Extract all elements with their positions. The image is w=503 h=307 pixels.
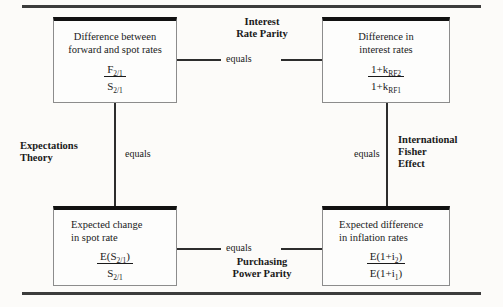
edge-label-expectations-theory-relation: equals [122,148,154,159]
formula-denominator: S2/1 [104,266,126,279]
node-forward-spot-formula: F2/1 S2/1 [54,63,176,97]
edge-label-international-fisher-effect-relation: equals [351,148,383,159]
node-forward-spot-title: Difference between forward and spot rate… [54,21,176,56]
formula-denominator: E(1+i1) [367,266,406,279]
connector-forward-spot-to-interest-rates-right [281,59,322,61]
edge-name-interest-rate-parity: Interest Rate Parity [219,16,305,40]
edge-label-interest-rate-parity-relation: equals [223,53,255,64]
node-inflation-rates-title: Expected difference in inflation rates [323,210,449,244]
connector-forward-spot-to-expected-spot [114,103,116,206]
connector-expected-spot-to-inflation-left [177,248,221,250]
connector-expected-spot-to-inflation-right [281,248,322,250]
diagram-canvas: Difference between forward and spot rate… [0,0,503,307]
connector-forward-spot-to-interest-rates-left [177,59,221,61]
node-inflation-rates: Expected difference in inflation rates E… [322,206,450,286]
node-expected-spot: Expected change in spot rate E(S2/1) S2/… [53,206,177,286]
edge-name-purchasing-power-parity: Purchasing Power Parity [214,256,310,280]
formula-numerator: F2/1 [104,63,126,77]
formula-numerator: E(S2/1) [97,250,133,264]
node-expected-spot-title: Expected change in spot rate [54,210,176,244]
node-interest-rates-title: Difference in interest rates [323,21,449,56]
node-expected-spot-formula: E(S2/1) S2/1 [54,250,176,284]
node-forward-spot: Difference between forward and spot rate… [53,17,177,103]
formula-denominator: S2/1 [104,79,126,92]
edge-name-expectations-theory: Expectations Theory [20,140,78,164]
bottom-horizontal-rule [22,292,481,295]
formula-numerator: E(1+i2) [367,250,406,264]
edge-name-international-fisher-effect: International Fisher Effect [398,134,458,170]
formula-denominator: 1+kRF1 [368,79,404,92]
node-interest-rates-formula: 1+kRF2 1+kRF1 [323,63,449,97]
top-horizontal-rule [22,5,481,8]
node-interest-rates: Difference in interest rates 1+kRF2 1+kR… [322,17,450,103]
formula-numerator: 1+kRF2 [368,63,404,77]
edge-label-purchasing-power-parity-relation: equals [223,242,255,253]
node-inflation-rates-formula: E(1+i2) E(1+i1) [323,250,449,284]
connector-interest-rates-to-inflation [386,103,388,206]
